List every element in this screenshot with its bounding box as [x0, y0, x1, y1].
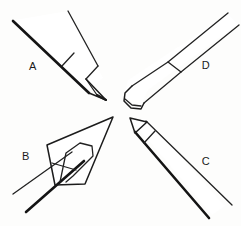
object-c-lower-edge [135, 132, 209, 218]
object-d-pencil: D [124, 13, 239, 109]
pencils-diagram: A D [0, 0, 241, 226]
object-c-barrel-fill [131, 119, 225, 215]
object-b-label: B [22, 150, 30, 162]
object-a-pencil: A [13, 11, 106, 100]
object-c-pencil: C [130, 118, 232, 218]
object-c-upper-edge [146, 121, 232, 205]
object-d-label: D [202, 59, 210, 71]
object-d-body-fill [124, 14, 238, 108]
object-b-cone-fill [47, 117, 113, 185]
figure-canvas: A D [0, 0, 241, 226]
object-c-label: C [202, 155, 210, 167]
object-a-label: A [29, 60, 37, 72]
object-b-pencil: B [13, 117, 113, 212]
